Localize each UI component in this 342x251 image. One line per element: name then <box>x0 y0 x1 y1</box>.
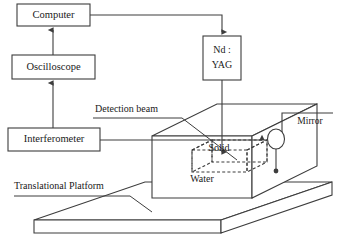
solid-label: Solid <box>208 142 229 153</box>
schematic-canvas: Computer Oscilloscope Interferometer Nd … <box>0 0 342 251</box>
ndyag-label-line2: YAG <box>212 59 233 70</box>
platform-front-face <box>34 220 221 233</box>
setup-schematic-figure: Computer Oscilloscope Interferometer Nd … <box>0 0 342 251</box>
interferometer-label: Interferometer <box>24 133 85 144</box>
ndyag-label-line1: Nd : <box>213 44 231 55</box>
detection-beam-label: Detection beam <box>95 103 158 114</box>
mirror-ellipse <box>268 129 285 149</box>
block-interferometer[interactable]: Interferometer <box>8 128 100 151</box>
water-label: Water <box>190 173 214 184</box>
oscilloscope-label: Oscilloscope <box>26 61 81 72</box>
computer-label: Computer <box>33 9 75 20</box>
block-oscilloscope[interactable]: Oscilloscope <box>12 55 95 79</box>
block-computer[interactable]: Computer <box>17 4 90 26</box>
wire-computer-to-ndyag <box>90 15 222 32</box>
mirror-base-dot <box>274 169 279 174</box>
block-nd-yag-laser[interactable]: Nd : YAG <box>203 36 241 80</box>
ndyag-box[interactable] <box>203 36 241 80</box>
translational-platform-label: Translational Platform <box>14 180 104 191</box>
mirror-label: Mirror <box>297 116 323 126</box>
